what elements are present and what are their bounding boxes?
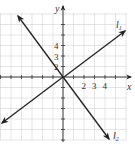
line-l2-label: l2: [113, 130, 119, 142]
x-axis-label: x: [126, 81, 132, 92]
line-l1-label: l1: [116, 19, 122, 31]
coordinate-plane: 2 3 4 2 3 4 x y l1 l2: [0, 0, 135, 145]
y-axis-label: y: [54, 3, 60, 14]
x-tick-label-4: 4: [103, 81, 108, 91]
x-tick-label-2: 2: [82, 81, 87, 91]
y-tick-label-3: 3: [54, 52, 59, 62]
y-tick-label-4: 4: [54, 41, 59, 51]
x-tick-label-3: 3: [92, 81, 97, 91]
